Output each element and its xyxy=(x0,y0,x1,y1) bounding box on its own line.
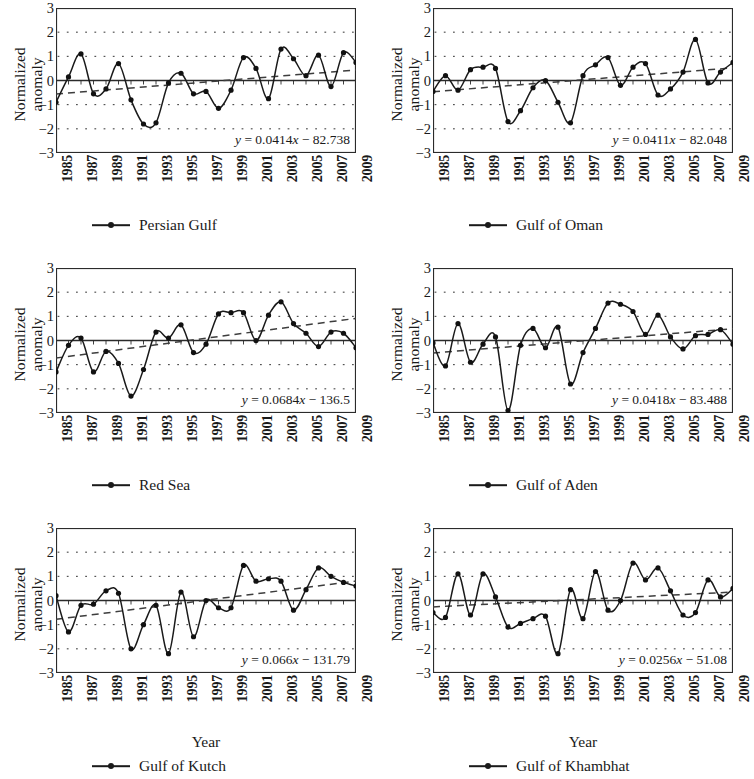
legend-marker-icon xyxy=(469,219,507,231)
data-point-marker xyxy=(103,349,108,354)
plot-area: 3210−1−2−3y = 0.0256x − 51.08 xyxy=(433,528,733,673)
y-tick-label: 2 xyxy=(47,545,54,560)
legend-dot xyxy=(108,222,114,228)
data-point-marker xyxy=(91,602,96,607)
data-point-marker xyxy=(680,346,685,351)
x-tick-label: 1991 xyxy=(513,675,527,702)
y-tick-label: −2 xyxy=(416,122,431,137)
y-tick-label: 3 xyxy=(47,1,54,16)
chart-panel-gulf-of-kutch: Normalizedanomaly3210−1−2−3y = 0.066x − … xyxy=(0,520,377,779)
data-point-marker xyxy=(191,634,196,639)
y-tick-label: 0 xyxy=(47,73,54,88)
y-tick-label: −2 xyxy=(416,382,431,397)
data-point-marker xyxy=(643,332,648,337)
data-point-marker xyxy=(493,66,498,71)
data-point-marker xyxy=(468,67,473,72)
y-tick-label: 0 xyxy=(424,333,431,348)
x-tick-label: 1999 xyxy=(613,415,627,442)
data-point-marker xyxy=(78,335,83,340)
data-point-marker xyxy=(228,88,233,93)
data-point-marker xyxy=(593,326,598,331)
data-point-marker xyxy=(116,61,121,66)
trend-equation: y = 0.0256x − 51.08 xyxy=(617,652,727,667)
data-point-marker xyxy=(668,334,673,339)
x-tick-label: 2003 xyxy=(286,415,300,442)
data-point-marker xyxy=(341,50,346,55)
y-tick-label: 0 xyxy=(47,593,54,608)
x-axis-title: Year xyxy=(56,733,356,751)
x-tick-label: 2005 xyxy=(311,155,325,182)
data-point-marker xyxy=(328,84,333,89)
legend-marker-icon xyxy=(92,479,130,491)
legend-label: Gulf of Khambhat xyxy=(516,757,630,775)
data-point-marker xyxy=(718,327,723,332)
plot-area: 3210−1−2−3y = 0.066x − 131.79 xyxy=(56,528,356,673)
x-tick-label: 1989 xyxy=(488,675,502,702)
data-point-marker xyxy=(228,605,233,610)
y-tick-label: −3 xyxy=(39,146,54,161)
y-tick-label: 1 xyxy=(47,309,54,324)
x-tick-label: 1995 xyxy=(186,675,200,702)
chart-panel-persian-gulf: Normalizedanomaly3210−1−2−3y = 0.0414x −… xyxy=(0,0,377,260)
y-tick-label: 2 xyxy=(424,25,431,40)
x-tick-label: 1995 xyxy=(186,155,200,182)
data-point-marker xyxy=(543,614,548,619)
data-point-marker xyxy=(253,66,258,71)
data-point-marker xyxy=(253,579,258,584)
data-point-marker xyxy=(605,55,610,60)
y-tick-label: 1 xyxy=(47,569,54,584)
data-point-marker xyxy=(216,106,221,111)
data-point-marker xyxy=(116,591,121,596)
y-tick-label: 3 xyxy=(47,261,54,276)
data-point-marker xyxy=(518,108,523,113)
x-tick-label: 2007 xyxy=(713,415,727,442)
plot-canvas: y = 0.0414x − 82.738 xyxy=(56,8,356,153)
data-point-marker xyxy=(78,603,83,608)
data-point-marker xyxy=(705,332,710,337)
x-tick-label: 2001 xyxy=(638,415,652,442)
data-point-marker xyxy=(543,345,548,350)
chart-panel-gulf-of-aden: Normalizedanomaly3210−1−2−3y = 0.0418x −… xyxy=(377,260,754,520)
data-point-marker xyxy=(455,321,460,326)
x-tick-label: 2003 xyxy=(663,415,677,442)
data-point-marker xyxy=(178,71,183,76)
data-point-marker xyxy=(316,53,321,58)
data-point-marker xyxy=(618,83,623,88)
data-point-marker xyxy=(253,338,258,343)
data-point-marker xyxy=(630,560,635,565)
data-point-marker xyxy=(291,56,296,61)
y-tick-label: −1 xyxy=(416,617,431,632)
data-point-marker xyxy=(66,74,71,79)
x-tick-label: 2009 xyxy=(738,675,752,702)
y-tick-label: −1 xyxy=(416,357,431,372)
plot-area: 3210−1−2−3y = 0.0414x − 82.738 xyxy=(56,8,356,153)
data-point-marker xyxy=(630,309,635,314)
data-point-marker xyxy=(303,587,308,592)
x-tick-label: 2001 xyxy=(638,675,652,702)
y-tick-label: −1 xyxy=(416,97,431,112)
x-tick-label: 2003 xyxy=(663,155,677,182)
y-tick-label: 3 xyxy=(424,261,431,276)
x-tick-label: 2005 xyxy=(688,415,702,442)
x-tick-label: 1991 xyxy=(136,415,150,442)
legend-marker-icon xyxy=(469,760,507,772)
y-tick-label: 0 xyxy=(424,593,431,608)
legend-marker-icon xyxy=(92,219,130,231)
data-point-marker xyxy=(443,615,448,620)
legend: Gulf of Khambhat xyxy=(433,757,743,775)
y-tick-label: −3 xyxy=(416,406,431,421)
data-point-marker xyxy=(693,37,698,42)
data-point-marker xyxy=(518,343,523,348)
data-point-marker xyxy=(568,120,573,125)
data-point-marker xyxy=(241,563,246,568)
y-tick-label: −1 xyxy=(39,357,54,372)
plot-area: 3210−1−2−3y = 0.0418x − 83.488 xyxy=(433,268,733,413)
data-point-marker xyxy=(605,300,610,305)
data-point-marker xyxy=(468,360,473,365)
data-point-marker xyxy=(443,73,448,78)
y-tick-label: 2 xyxy=(47,285,54,300)
x-tick-label: 1987 xyxy=(86,675,100,702)
data-point-marker xyxy=(153,603,158,608)
data-point-marker xyxy=(630,65,635,70)
x-tick-label: 1991 xyxy=(136,675,150,702)
